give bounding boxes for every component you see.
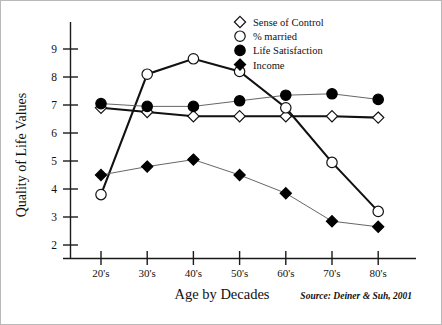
series-lines-group — [101, 59, 378, 227]
datapoint-married-30s — [142, 69, 152, 79]
datapoint-income-60s — [280, 188, 291, 199]
datapoint-sense-of-control-70s — [326, 111, 337, 122]
datapoint-income-80s — [373, 221, 384, 232]
open-circle-icon — [235, 31, 245, 41]
chart-figure: 23456789 20's30's40's50's60's70's80's Qu… — [0, 0, 442, 325]
source-note: Source: Deiner & Suh, 2001 — [300, 291, 412, 301]
x-tick-label: 70's — [323, 267, 340, 279]
legend-label: % married — [253, 31, 298, 42]
datapoint-life-satisfaction-60s — [281, 90, 291, 100]
datapoint-married-20s — [96, 189, 106, 199]
datapoint-married-80s — [373, 206, 383, 216]
datapoint-married-60s — [281, 103, 291, 113]
y-axis: 23456789 — [51, 22, 78, 259]
y-tick-label: 4 — [51, 183, 57, 195]
datapoint-income-30s — [142, 161, 153, 172]
datapoint-sense-of-control-40s — [188, 111, 199, 122]
x-tick-label: 40's — [185, 267, 202, 279]
series-markers-group — [95, 54, 383, 233]
y-tick-label: 5 — [51, 155, 57, 167]
datapoint-sense-of-control-50s — [234, 111, 245, 122]
series-line-married — [101, 59, 378, 212]
datapoint-life-satisfaction-30s — [142, 101, 152, 111]
y-tick-label: 2 — [51, 239, 57, 251]
y-tick-label: 3 — [51, 211, 57, 223]
datapoint-married-40s — [188, 54, 198, 64]
datapoint-life-satisfaction-50s — [234, 96, 244, 106]
x-tick-label: 30's — [139, 267, 156, 279]
y-axis-title: Quality of Life Values — [14, 93, 29, 218]
datapoint-life-satisfaction-20s — [96, 98, 106, 108]
datapoint-income-50s — [234, 169, 245, 180]
filled-circle-icon — [235, 45, 245, 55]
datapoint-life-satisfaction-70s — [327, 89, 337, 99]
datapoint-sense-of-control-80s — [373, 112, 384, 123]
legend-label: Income — [253, 60, 285, 71]
y-tick-label: 6 — [51, 127, 57, 139]
datapoint-married-70s — [327, 157, 337, 167]
x-axis: 20's30's40's50's60's70's80's — [63, 251, 416, 279]
y-tick-label: 9 — [51, 43, 57, 55]
x-tick-label-group: 20's30's40's50's60's70's80's — [92, 267, 386, 279]
legend-label: Life Satisfaction — [253, 45, 323, 56]
x-tick-label: 80's — [370, 267, 387, 279]
y-tick-label-group: 23456789 — [51, 43, 57, 251]
chart-canvas: 23456789 20's30's40's50's60's70's80's Qu… — [0, 0, 442, 325]
legend-label: Sense of Control — [253, 17, 324, 28]
datapoint-income-40s — [188, 154, 199, 165]
datapoint-income-20s — [95, 169, 106, 180]
datapoint-income-70s — [326, 216, 337, 227]
datapoint-life-satisfaction-40s — [188, 101, 198, 111]
y-tick-label: 7 — [51, 99, 57, 111]
x-tick-label: 60's — [277, 267, 294, 279]
datapoint-life-satisfaction-80s — [373, 94, 383, 104]
x-tick-label: 50's — [231, 267, 248, 279]
open-diamond-icon — [234, 16, 245, 27]
x-axis-title: Age by Decades — [174, 286, 269, 302]
x-tick-label: 20's — [92, 267, 109, 279]
legend: Sense of Control% marriedLife Satisfacti… — [234, 16, 323, 70]
y-tick-label: 8 — [51, 71, 57, 83]
